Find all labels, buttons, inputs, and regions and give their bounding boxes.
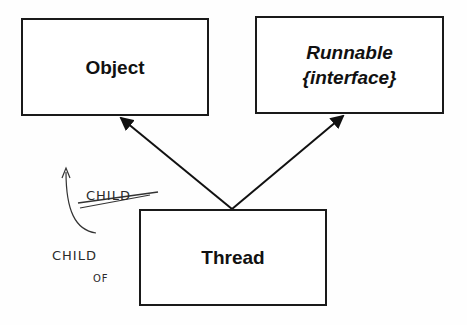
arrow-thread-to-runnable bbox=[232, 116, 343, 209]
class-name-object: Object bbox=[85, 55, 144, 80]
diagram-canvas: Object Runnable {interface} Thread CHILD… bbox=[0, 0, 467, 325]
class-name-thread: Thread bbox=[201, 245, 264, 270]
class-box-object: Object bbox=[21, 18, 209, 116]
class-box-thread: Thread bbox=[139, 209, 327, 306]
handwritten-struck-text: CHILD bbox=[86, 188, 131, 203]
handwritten-note-of: OF bbox=[93, 273, 109, 284]
class-name-runnable: Runnable bbox=[306, 40, 393, 65]
handwritten-note-child: CHILD bbox=[52, 248, 97, 263]
class-box-runnable: Runnable {interface} bbox=[255, 16, 444, 114]
stereotype-interface: {interface} bbox=[303, 65, 397, 90]
